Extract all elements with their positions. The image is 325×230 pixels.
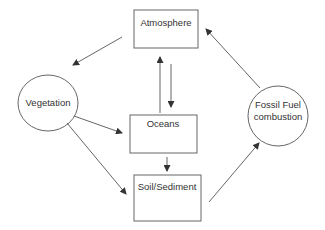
node-atmosphere: Atmosphere (134, 10, 198, 48)
arrow-fossil-to-atmosphere (206, 29, 260, 88)
node-soil-label: Soil/Sediment (138, 181, 197, 192)
arrow-vegetation-to-oceans (74, 116, 122, 133)
node-fossil-label-2: combustion (254, 111, 303, 122)
arrow-soil-to-fossil (209, 143, 259, 202)
node-fossil-label-1: Fossil Fuel (255, 99, 301, 110)
node-fossil-fuel: Fossil Fuel combustion (248, 86, 308, 146)
arrow-vegetation-to-soil (67, 123, 126, 194)
node-atmosphere-label: Atmosphere (140, 17, 191, 28)
node-vegetation: Vegetation (18, 75, 78, 131)
carbon-cycle-diagram: Atmosphere Vegetation Oceans Soil/Sedime… (0, 0, 325, 230)
arrow-atmosphere-to-vegetation (73, 37, 122, 65)
node-oceans-label: Oceans (147, 118, 180, 129)
node-vegetation-label: Vegetation (26, 97, 71, 108)
node-oceans: Oceans (130, 115, 197, 153)
node-soil-sediment: Soil/Sediment (134, 175, 201, 221)
